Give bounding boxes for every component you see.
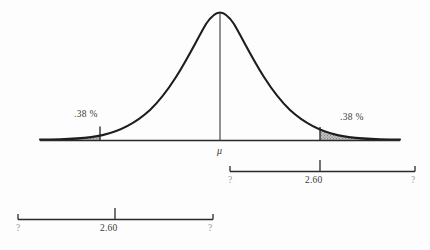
- right-number-line-center-label: 2.60: [305, 176, 322, 186]
- bottom-number-line-group: [18, 208, 213, 220]
- mean-mu-label: μ: [217, 146, 222, 156]
- right-number-line-group: [230, 160, 415, 172]
- left-tail-percent-label: .38 %: [74, 110, 98, 120]
- figure-page: .38 % .38 % μ ? 2.60 ? ? 2.60 ?: [0, 0, 430, 250]
- bottom-number-line-center-label: 2.60: [100, 224, 117, 234]
- right-tail-percent-label: .38 %: [340, 113, 364, 123]
- right-number-line-right-label: ?: [411, 176, 415, 186]
- right-number-line-left-label: ?: [228, 176, 232, 186]
- bottom-number-line-left-label: ?: [16, 224, 20, 234]
- normal-distribution-figure: [0, 0, 430, 250]
- bottom-number-line-right-label: ?: [208, 224, 212, 234]
